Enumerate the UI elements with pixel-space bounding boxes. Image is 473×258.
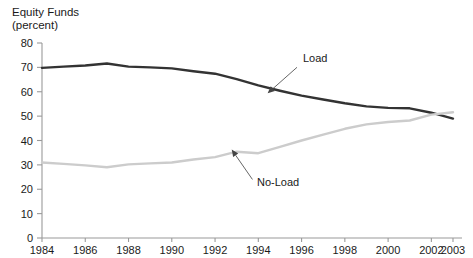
y-tick-label: 0 bbox=[27, 232, 33, 244]
y-tick-label: 40 bbox=[21, 135, 33, 147]
y-tick-label: 20 bbox=[21, 183, 33, 195]
line-chart: Equity Funds (percent) 01020304050607080… bbox=[0, 0, 473, 258]
x-axis-ticks: 1984198619881990199219941996199820002002… bbox=[30, 238, 465, 256]
x-tick-label: 1990 bbox=[160, 244, 184, 256]
chart-title: Equity Funds bbox=[12, 6, 79, 18]
x-tick-label: 1998 bbox=[333, 244, 357, 256]
y-tick-label: 60 bbox=[21, 86, 33, 98]
y-tick-label: 30 bbox=[21, 159, 33, 171]
annotation-label-no-load: No-Load bbox=[257, 176, 299, 188]
x-tick-label: 2003 bbox=[441, 244, 465, 256]
x-tick-label: 1986 bbox=[73, 244, 97, 256]
y-tick-label: 10 bbox=[21, 208, 33, 220]
y-tick-label: 70 bbox=[21, 61, 33, 73]
x-tick-label: 1988 bbox=[116, 244, 140, 256]
x-tick-label: 1996 bbox=[289, 244, 313, 256]
x-tick-label: 1994 bbox=[246, 244, 270, 256]
y-tick-label: 80 bbox=[21, 37, 33, 49]
series-line-no-load bbox=[42, 112, 453, 167]
annotation-label-load: Load bbox=[303, 52, 327, 64]
x-tick-label: 1992 bbox=[203, 244, 227, 256]
y-tick-label: 50 bbox=[21, 110, 33, 122]
chart-container: Equity Funds (percent) 01020304050607080… bbox=[0, 0, 473, 258]
chart-subtitle: (percent) bbox=[12, 19, 58, 31]
series-line-load bbox=[42, 63, 453, 118]
annotation-group: LoadNo-Load bbox=[232, 52, 328, 188]
x-tick-label: 1984 bbox=[30, 244, 54, 256]
annotation-arrow-no-load bbox=[236, 155, 253, 179]
y-axis-ticks: 01020304050607080 bbox=[21, 37, 42, 244]
data-series-group bbox=[42, 63, 453, 167]
x-tick-label: 2000 bbox=[376, 244, 400, 256]
annotation-arrow-load bbox=[273, 67, 297, 88]
